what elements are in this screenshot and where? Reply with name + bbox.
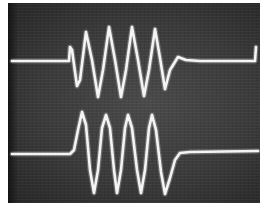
upper-burst-trace — [12, 27, 256, 97]
waveform-traces — [0, 0, 272, 216]
